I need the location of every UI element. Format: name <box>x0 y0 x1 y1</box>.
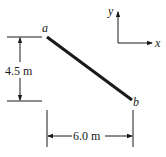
point-b-label: b <box>133 95 139 109</box>
horizontal-dimension-label: 6.0 m <box>73 129 101 143</box>
diagram-svg: a b 4.5 m 6.0 m y x <box>0 0 166 157</box>
point-a-label: a <box>42 21 48 35</box>
beam-diagram: a b 4.5 m 6.0 m y x <box>0 0 166 157</box>
vertical-dimension-label: 4.5 m <box>5 64 33 78</box>
y-axis-label: y <box>107 4 114 18</box>
x-axis-label: x <box>154 36 161 50</box>
member-ab <box>47 37 132 100</box>
